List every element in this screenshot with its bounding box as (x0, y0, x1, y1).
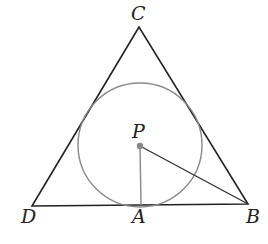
segment-pa (140, 146, 141, 205)
segment-pb (140, 146, 248, 204)
geometry-diagram: C P D A B (0, 0, 268, 244)
label-c: C (131, 2, 146, 24)
label-d: D (20, 205, 36, 227)
label-b: B (245, 205, 260, 227)
label-p: P (131, 120, 146, 142)
center-point-p (137, 143, 143, 149)
label-a: A (130, 205, 146, 227)
